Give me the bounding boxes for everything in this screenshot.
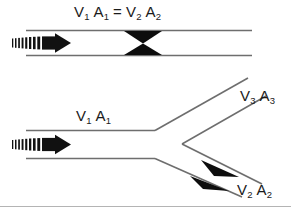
inlet-v1a1-label: V1A1 [76, 108, 111, 123]
figure-root: V1A1=V2A2 V1A1 V3A3 V2A2 [0, 0, 291, 209]
top-eq-v-right: V [126, 3, 136, 20]
branch2-v-sub: 2 [247, 189, 252, 200]
top-eq-v-right-sub: 2 [136, 11, 141, 22]
lower-branch-outer-wall [155, 159, 242, 198]
lower-branch-arrowhead-lower [190, 176, 229, 191]
top-eq-a-right: A [146, 3, 156, 20]
top-eq-v-left-sub: 1 [84, 11, 89, 22]
top-eq-a-right-sub: 2 [156, 11, 161, 22]
branch3-v: V [240, 87, 250, 104]
top-eq-a-left-sub: 1 [104, 11, 109, 22]
top-eq-equals: = [109, 4, 126, 19]
upper-branch-outer-wall [155, 78, 248, 131]
top-pipe-group [12, 31, 252, 56]
inlet-a: A [96, 107, 106, 124]
inlet-v-sub: 1 [86, 115, 91, 126]
top-eq-v-left: V [74, 3, 84, 20]
inlet-a-sub: 1 [106, 115, 111, 126]
branch3-v-sub: 3 [250, 95, 255, 106]
branch3-a: A [260, 87, 270, 104]
inlet-v: V [76, 107, 86, 124]
venturi-lower-triangle [124, 44, 162, 56]
bottom-pipe-group [12, 78, 266, 197]
branch2-a-sub: 2 [267, 189, 272, 200]
top-eq-a-left: A [94, 3, 104, 20]
top-continuity-equation-label: V1A1=V2A2 [74, 4, 161, 19]
branch2-a: A [257, 181, 267, 198]
top-inlet-arrow [12, 33, 71, 53]
venturi-upper-triangle [124, 31, 162, 44]
upper-branch-v3a3-label: V3A3 [240, 88, 275, 103]
bottom-inlet-arrow [12, 135, 71, 155]
diagram-canvas [0, 0, 291, 209]
lower-branch-v2a2-label: V2A2 [237, 182, 272, 197]
branch3-a-sub: 3 [270, 95, 275, 106]
branch2-v: V [237, 181, 247, 198]
